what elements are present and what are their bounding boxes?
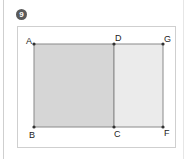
point-b — [32, 125, 35, 128]
point-a — [32, 42, 35, 45]
label-d: D — [115, 33, 122, 43]
label-c: C — [114, 129, 121, 139]
label-g: G — [164, 34, 171, 44]
label-b: B — [29, 130, 35, 140]
label-a: A — [26, 36, 32, 46]
label-f: F — [164, 128, 170, 138]
rectangles-diagram: A D G B C F — [0, 0, 186, 159]
rectangle-abcd — [34, 44, 114, 127]
rectangle-dcfg — [114, 44, 163, 127]
